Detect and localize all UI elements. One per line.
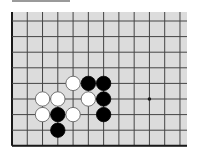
black-stone-icon (96, 92, 110, 106)
star-point-icon (148, 97, 152, 101)
black-stone-icon (96, 76, 110, 90)
white-stone-icon (81, 92, 95, 106)
board-grid (0, 0, 198, 157)
white-stone-icon (35, 107, 49, 121)
black-stone-icon (96, 107, 110, 121)
black-stone-icon (51, 107, 65, 121)
white-stone-icon (66, 107, 80, 121)
white-stone-icon (35, 92, 49, 106)
black-stone-icon (51, 123, 65, 137)
white-stone-icon (66, 76, 80, 90)
white-stone-icon (51, 92, 65, 106)
black-stone-icon (81, 76, 95, 90)
